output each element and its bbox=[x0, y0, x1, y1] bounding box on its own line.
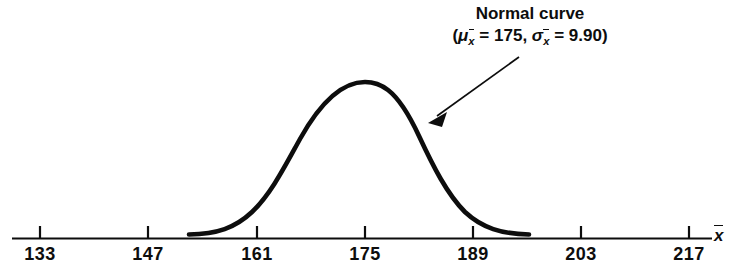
axis-label-161: 161 bbox=[222, 244, 292, 265]
annotation-title: Normal curve bbox=[380, 3, 680, 25]
equals-sign-mu: = bbox=[479, 26, 489, 45]
annotation-arrow bbox=[428, 57, 519, 127]
axis-label-217: 217 bbox=[654, 244, 724, 265]
x-bar-axis-label: x bbox=[714, 226, 723, 246]
sigma-symbol: σ bbox=[532, 26, 543, 45]
axis-tick-marks bbox=[40, 226, 689, 238]
close-paren: ) bbox=[602, 26, 608, 45]
std-value: 9.90 bbox=[569, 26, 602, 45]
normal-curve-figure: Normal curve (μx = 175, σx = 9.90) 133 1… bbox=[0, 0, 734, 279]
axis-label-203: 203 bbox=[546, 244, 616, 265]
curve-annotation: Normal curve (μx = 175, σx = 9.90) bbox=[380, 3, 680, 52]
axis-label-189: 189 bbox=[438, 244, 508, 265]
x-bar-glyph: x bbox=[714, 226, 723, 246]
mean-value: 175 bbox=[494, 26, 522, 45]
axis-label-175: 175 bbox=[330, 244, 400, 265]
normal-distribution-curve-path bbox=[189, 82, 529, 235]
equals-sign-sigma: = bbox=[554, 26, 564, 45]
sigma-subscript: x bbox=[543, 35, 549, 47]
axis-label-147: 147 bbox=[113, 244, 183, 265]
mu-subscript: x bbox=[468, 35, 474, 47]
mu-symbol: μ bbox=[458, 26, 468, 45]
comma-separator: , bbox=[522, 26, 527, 45]
annotation-parameters: (μx = 175, σx = 9.90) bbox=[380, 25, 680, 52]
axis-label-133: 133 bbox=[5, 244, 75, 265]
